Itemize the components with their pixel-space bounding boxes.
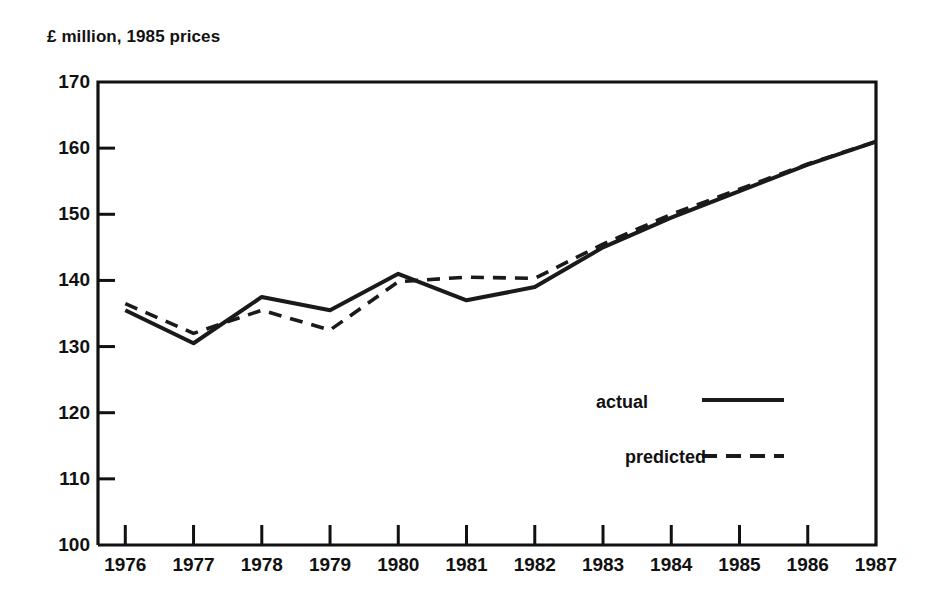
line-chart-plot (0, 0, 938, 604)
x-axis-tick-label: 1979 (294, 555, 366, 574)
x-axis-tick-label: 1986 (772, 555, 844, 574)
legend-label-predicted: predicted (625, 447, 706, 468)
x-axis-tick-label: 1977 (158, 555, 230, 574)
y-axis-tick-label: 160 (34, 138, 90, 157)
series-line-actual (125, 142, 876, 344)
x-axis-tick-label: 1983 (567, 555, 639, 574)
plot-frame (98, 82, 876, 545)
y-axis-tick-label: 120 (34, 403, 90, 422)
x-axis-tick-label: 1985 (704, 555, 776, 574)
x-axis-tick-label: 1984 (635, 555, 707, 574)
y-axis-tick-label: 110 (34, 469, 90, 488)
y-axis-tick-label: 100 (34, 535, 90, 554)
y-axis-tick-label: 140 (34, 270, 90, 289)
x-axis-tick-label: 1978 (226, 555, 298, 574)
x-axis-tick-label: 1981 (431, 555, 503, 574)
legend-label-actual: actual (596, 392, 648, 413)
x-axis-tick-label: 1982 (499, 555, 571, 574)
y-axis-tick-label: 150 (34, 204, 90, 223)
y-axis-tick-label: 170 (34, 72, 90, 91)
y-axis-tick-label: 130 (34, 337, 90, 356)
series-line-predicted (125, 142, 876, 334)
x-axis-tick-label: 1976 (89, 555, 161, 574)
chart-container: £ million, 1985 prices 10011012013014015… (0, 0, 938, 604)
x-axis-tick-label: 1980 (362, 555, 434, 574)
x-axis-tick-label: 1987 (840, 555, 912, 574)
